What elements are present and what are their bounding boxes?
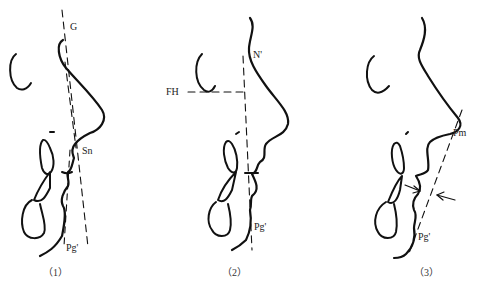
chin-bone [209,202,231,236]
lower-tooth [388,176,402,203]
sn-pg-line [64,150,70,246]
g-pg-reference-line [62,10,88,247]
upper-tooth [224,132,239,173]
ear-outline [10,54,31,90]
lower-tooth [34,172,50,201]
g-sn-reference-line [65,62,76,148]
ear-outline [367,56,389,93]
caption-panel-1: （1） [43,268,68,278]
profile-line [394,18,460,258]
chin-bone [375,202,397,238]
ear-outline [196,54,215,92]
lower-tooth [218,172,236,201]
panel-3-drawing [367,18,462,258]
caption-panel-3: （3） [414,268,439,278]
label-pm: Pm [453,128,466,138]
label-n: N' [253,50,262,60]
label-pg: Pg' [66,243,78,253]
label-pg: Pg' [418,232,430,242]
upper-tooth [40,132,54,174]
upper-lip-arrow-icon [405,185,420,193]
label-g: G [70,22,77,32]
caption-panel-2: （2） [222,268,247,278]
label-pg: Pg' [254,222,266,232]
label-fh: FH [166,87,179,97]
lower-lip-arrow-icon [437,192,455,200]
chin-bone [22,200,45,238]
label-sn: Sn [82,146,93,156]
upper-tooth [392,132,408,174]
panel-2-drawing [188,18,288,250]
panel-1-drawing [10,10,104,256]
